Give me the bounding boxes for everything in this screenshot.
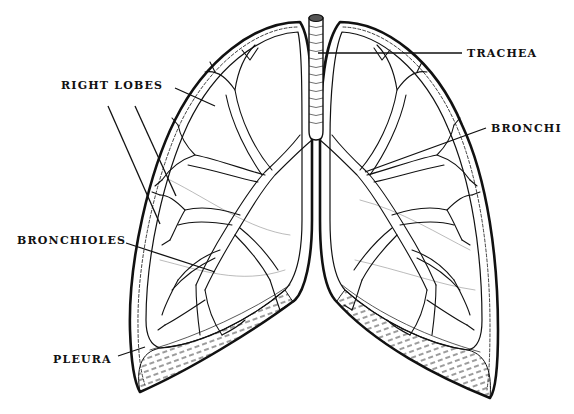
label-bronchioles: BRONCHIOLES	[17, 235, 126, 246]
left-lung	[320, 22, 498, 398]
label-right-lobes: RIGHT LOBES	[61, 80, 163, 91]
right-lung	[130, 22, 312, 392]
label-trachea: TRACHEA	[467, 48, 537, 59]
trachea	[309, 15, 323, 141]
label-pleura: PLEURA	[53, 354, 112, 365]
lungs-diagram	[0, 0, 574, 414]
label-bronchi: BRONCHI	[491, 123, 562, 134]
right-lobes-leader-2	[108, 106, 160, 224]
